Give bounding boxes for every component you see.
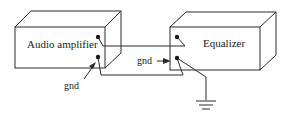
eq-ground-terminal (175, 56, 179, 60)
amplifier-label: Audio amplifier (27, 38, 98, 50)
ground-symbol-icon (196, 101, 216, 109)
eq-gnd-label: gnd (137, 55, 152, 66)
wiring-diagram: Audio amplifier Equalizer gnd gnd (0, 0, 290, 117)
amp-gnd-label: gnd (64, 80, 79, 91)
amp-ground-terminal (96, 55, 100, 59)
equalizer-label: Equalizer (203, 37, 245, 49)
eq-signal-terminal (175, 35, 179, 39)
